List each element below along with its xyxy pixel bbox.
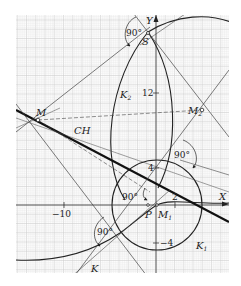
tick-label-x-2: 2 [172, 192, 178, 202]
k2-outer-arc [148, 17, 235, 32]
angle-label-bottom-left: 90° [97, 227, 113, 237]
x-axis-arrow-icon [222, 202, 229, 207]
label-m2-sub: 2 [197, 110, 202, 117]
label-s: S [142, 36, 149, 47]
point-s [147, 32, 150, 35]
construction-diagram: Y X −10 12 4 −4 2 M S P M1 M2 K2 K1 K CH… [0, 0, 241, 286]
tick-label-y-12: 12 [142, 88, 153, 98]
label-m2-main: M [187, 105, 199, 116]
label-p: P [144, 209, 152, 220]
angle-label-top: 90° [126, 28, 142, 38]
angle-label-center: 90° [122, 192, 138, 202]
label-ch: CH [74, 125, 91, 136]
x-axis-label: X [218, 191, 227, 202]
y-axis-label: Y [146, 15, 154, 26]
label-k1-sub: 1 [203, 245, 207, 252]
angle-label-right: 90° [174, 150, 190, 160]
tick-label-y-4: 4 [148, 163, 154, 173]
point-m1 [156, 204, 159, 207]
tick-label-x-neg10: −10 [52, 209, 71, 219]
tick-label-y-neg4: −4 [160, 238, 174, 248]
point-m [36, 118, 40, 122]
label-k2: K2 [119, 89, 131, 101]
label-m1-sub: 1 [168, 214, 172, 221]
label-m: M [35, 107, 47, 118]
line-m-m2-dashed [38, 110, 202, 120]
label-m1-main: M [157, 209, 169, 220]
label-m1: M1 [157, 209, 172, 221]
point-p [147, 204, 150, 207]
label-k: K [90, 263, 99, 274]
label-p-text: P [144, 209, 152, 220]
label-k2-sub: 2 [126, 94, 131, 101]
